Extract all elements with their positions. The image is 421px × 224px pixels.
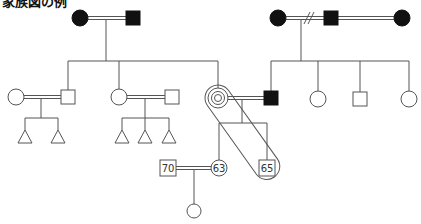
sibling1-male-icon: [61, 90, 75, 104]
sibship-line-right: [271, 61, 409, 92]
half-sibling-female-icon: [401, 91, 417, 107]
grandmother-right-first-wife-deceased-icon: [270, 10, 286, 26]
child-triangle-icon: [18, 130, 32, 143]
child-triangle-icon: [51, 130, 65, 143]
marriage-line-right-grandparents: [286, 17, 394, 62]
marriage-line-child: [176, 167, 211, 205]
grandfather-left-deceased-icon: [126, 11, 140, 25]
marriage-line-patient: [219, 97, 267, 161]
sibship-line-left: [68, 61, 218, 90]
child-triangle-icon: [162, 130, 176, 143]
age-label: 65: [261, 163, 274, 174]
identified-patient-icon: [208, 88, 228, 108]
son-in-law-70: 70: [160, 160, 176, 176]
grandmother-right-second-wife-deceased-icon: [394, 10, 410, 26]
grandchild-female-icon: [187, 204, 201, 218]
sibling2-female-icon: [111, 89, 127, 105]
age-label: 63: [213, 163, 226, 174]
half-sibling-female-icon: [310, 91, 326, 107]
marriage-line-left-grandparents: [88, 17, 126, 62]
marriage-line-sibling1: [24, 96, 61, 131]
marriage-line-sibling2: [122, 96, 169, 131]
grandmother-left-deceased-icon: [72, 10, 88, 26]
grandfather-right-deceased-icon: [324, 11, 338, 25]
half-sibling-male-icon: [353, 92, 367, 106]
sibling2-husband-icon: [165, 90, 179, 104]
divorce-marks-icon: [304, 12, 314, 24]
age-label: 70: [162, 163, 175, 174]
son-65: 65: [259, 160, 275, 176]
sibling1-wife-icon: [8, 89, 24, 105]
child-triangle-icon: [115, 130, 129, 143]
child-triangle-icon: [138, 130, 152, 143]
genogram: 70 63 65: [0, 0, 421, 224]
patient-husband-deceased-icon: [264, 91, 278, 105]
daughter-63: 63: [211, 160, 227, 176]
